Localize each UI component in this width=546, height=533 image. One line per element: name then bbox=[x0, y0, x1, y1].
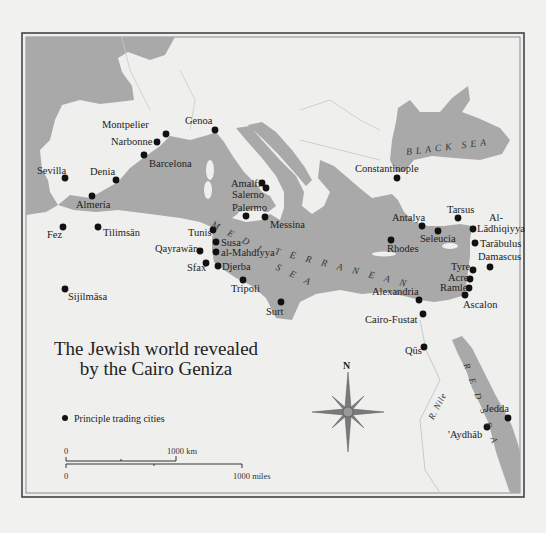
scale-miles-zero: 0 bbox=[64, 472, 68, 481]
north-label: N bbox=[343, 360, 350, 371]
city-dot-icon bbox=[420, 311, 427, 318]
city-label: Cairo-Fustat bbox=[365, 315, 418, 326]
map-title-line-2: by the Cairo Geniza bbox=[36, 359, 276, 379]
city-label: Amalfi bbox=[231, 179, 261, 190]
city-dot-icon bbox=[95, 224, 102, 231]
city-label: Ramle bbox=[440, 283, 467, 294]
city-label: Rhodes bbox=[387, 244, 419, 255]
map-canvas: MontpelierNarbonneBarcelonaGenoaSevillaD… bbox=[0, 0, 546, 533]
city-dot-icon bbox=[472, 240, 479, 247]
city-dot-icon bbox=[215, 263, 222, 270]
city-label: Qayrawān bbox=[155, 244, 198, 255]
city-label: Tarābulus bbox=[480, 239, 521, 250]
city-dot-icon bbox=[212, 127, 219, 134]
city-dot-icon bbox=[163, 131, 170, 138]
city-label: Tyre bbox=[451, 262, 470, 273]
city-label: Fez bbox=[47, 230, 62, 241]
city-dot-icon bbox=[213, 249, 220, 256]
city-label: Tarsus bbox=[447, 205, 474, 216]
city-label: Sevilla bbox=[37, 166, 66, 177]
city-dot-icon bbox=[243, 213, 250, 220]
city-label: Sijilmāsa bbox=[68, 292, 107, 303]
city-dot-icon bbox=[470, 267, 477, 274]
city-dot-icon bbox=[505, 415, 512, 422]
city-dot-icon bbox=[154, 139, 161, 146]
city-label: Denia bbox=[90, 167, 115, 178]
city-dot-icon bbox=[455, 215, 462, 222]
city-dot-icon bbox=[141, 152, 148, 159]
city-label: Djerba bbox=[222, 262, 251, 273]
city-label: Barcelona bbox=[149, 159, 192, 170]
scale-miles-label: 1000 miles bbox=[233, 472, 271, 481]
city-label: Narbonne bbox=[111, 137, 152, 148]
city-label: Sfax bbox=[187, 263, 206, 274]
city-label: 'Aydhāb bbox=[448, 430, 482, 441]
city-dot-icon bbox=[278, 299, 285, 306]
city-dot-icon bbox=[213, 239, 220, 246]
city-dot-icon bbox=[416, 297, 423, 304]
scale-km-zero: 0 bbox=[64, 447, 68, 456]
city-label: Ascalon bbox=[463, 300, 497, 311]
city-label: al-Mahdiyya bbox=[221, 248, 275, 259]
city-label: Palermo bbox=[232, 203, 267, 214]
city-label: Seleucia bbox=[420, 234, 456, 245]
city-label: Genoa bbox=[185, 116, 212, 127]
legend-label: Principle trading cities bbox=[74, 413, 165, 424]
city-label: Almería bbox=[76, 200, 110, 211]
city-label: Antalya bbox=[392, 213, 425, 224]
city-dot-icon bbox=[470, 226, 477, 233]
city-label: Tripoli bbox=[231, 284, 260, 295]
city-label: Tunis bbox=[188, 228, 212, 239]
city-label: Tilimsān bbox=[103, 228, 140, 239]
city-dot-icon bbox=[394, 175, 401, 182]
map-title-line-1: The Jewish world revealed bbox=[36, 339, 276, 359]
city-dot-icon bbox=[487, 264, 494, 271]
map-title: The Jewish world revealed by the Cairo G… bbox=[36, 339, 276, 379]
city-label: Montpelier bbox=[102, 120, 149, 131]
city-label: Alexandria bbox=[372, 287, 419, 298]
city-dot-icon bbox=[62, 415, 68, 421]
city-label: Qūs bbox=[405, 346, 422, 357]
city-dot-icon bbox=[262, 214, 269, 221]
city-dot-icon bbox=[419, 223, 426, 230]
city-label: Al-Lādhiqiyya bbox=[477, 213, 525, 234]
city-dot-icon bbox=[113, 177, 120, 184]
city-label: Salerno bbox=[232, 190, 264, 201]
city-label: Surt bbox=[266, 307, 284, 318]
city-label: Messina bbox=[270, 220, 305, 231]
legend: Principle trading cities bbox=[62, 413, 165, 424]
scale-km-label: 1000 km bbox=[167, 447, 197, 456]
city-label: Constantinople bbox=[355, 164, 419, 175]
city-label: Damascus bbox=[478, 252, 521, 263]
